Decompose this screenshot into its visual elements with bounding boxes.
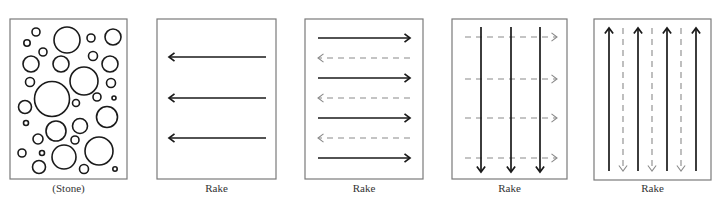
- panel-stone: [10, 19, 127, 179]
- panel-label-rake-4: Rake: [641, 182, 664, 194]
- rake-pattern-diagram: (Stone) Rake Rake Rake Rake: [0, 0, 724, 203]
- panel-label-stone: (Stone): [52, 182, 85, 195]
- panel-label-rake-3: Rake: [498, 182, 521, 194]
- panel-rake-alternating-vertical: [594, 19, 711, 180]
- panel-frame: [157, 19, 276, 179]
- panel-rake-vertical-down-cross: [452, 19, 567, 179]
- panel-rake-alternating-horizontal: [305, 19, 423, 179]
- panel-rake-horizontal-left: [157, 19, 276, 179]
- panel-frame: [10, 19, 127, 179]
- panel-frame: [452, 19, 567, 179]
- panel-label-rake-1: Rake: [205, 182, 228, 194]
- panel-label-rake-2: Rake: [353, 182, 376, 194]
